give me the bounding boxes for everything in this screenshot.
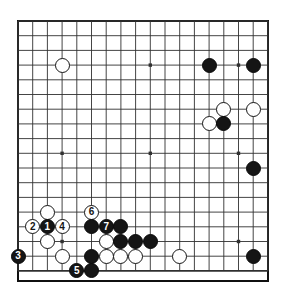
stone-white[interactable] xyxy=(99,249,114,264)
stone-white[interactable] xyxy=(128,249,143,264)
stone-black[interactable] xyxy=(113,219,128,234)
numbered-stone-white[interactable]: 4 xyxy=(55,219,70,234)
stone-white[interactable] xyxy=(40,234,55,249)
stone-black[interactable] xyxy=(216,116,231,131)
move-number-label: 4 xyxy=(59,221,65,231)
stone-white[interactable] xyxy=(113,249,128,264)
stone-black[interactable] xyxy=(84,263,99,278)
go-diagram-root: 6214735 xyxy=(0,0,285,303)
move-number-label: 5 xyxy=(74,265,80,275)
stone-white[interactable] xyxy=(55,249,70,264)
stone-layer: 6214735 xyxy=(0,0,285,303)
stone-black[interactable] xyxy=(84,249,99,264)
stone-white[interactable] xyxy=(172,249,187,264)
move-number-label: 3 xyxy=(15,251,21,261)
stone-black[interactable] xyxy=(113,234,128,249)
move-number-label: 1 xyxy=(45,221,51,231)
stone-black[interactable] xyxy=(246,249,261,264)
numbered-stone-white[interactable]: 2 xyxy=(25,219,40,234)
numbered-stone-black[interactable]: 7 xyxy=(99,219,114,234)
stone-white[interactable] xyxy=(99,234,114,249)
move-number-label: 2 xyxy=(30,221,36,231)
stone-black[interactable] xyxy=(143,234,158,249)
move-number-label: 7 xyxy=(103,221,109,231)
stone-white[interactable] xyxy=(216,102,231,117)
stone-black[interactable] xyxy=(128,234,143,249)
move-number-label: 6 xyxy=(89,207,95,217)
stone-white[interactable] xyxy=(246,102,261,117)
stone-white[interactable] xyxy=(202,116,217,131)
stone-white[interactable] xyxy=(40,205,55,220)
stone-black[interactable] xyxy=(84,219,99,234)
stone-white[interactable] xyxy=(55,58,70,73)
numbered-stone-black[interactable]: 5 xyxy=(69,263,84,278)
numbered-stone-white[interactable]: 6 xyxy=(84,205,99,220)
numbered-stone-black[interactable]: 1 xyxy=(40,219,55,234)
stone-black[interactable] xyxy=(246,161,261,176)
stone-black[interactable] xyxy=(246,58,261,73)
stone-black[interactable] xyxy=(202,58,217,73)
numbered-stone-black[interactable]: 3 xyxy=(11,249,26,264)
